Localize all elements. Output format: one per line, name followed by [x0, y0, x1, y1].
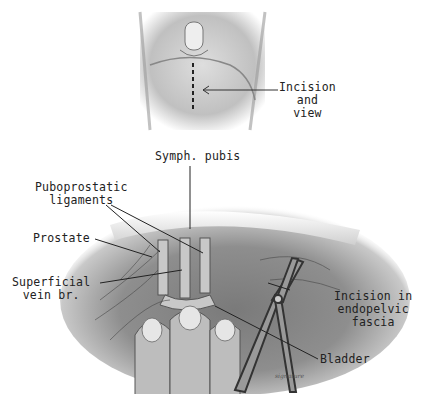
label-bladder: Bladder — [320, 353, 370, 366]
top-panel — [140, 12, 278, 130]
label-symph-pubis: Symph. pubis — [155, 150, 240, 163]
svg-text:signature: signature — [275, 372, 304, 380]
label-prostate: Prostate — [33, 232, 90, 245]
label-line: vein br. — [12, 289, 90, 302]
label-line: ligaments — [35, 194, 128, 207]
label-superficial-vein-br: Superficial vein br. — [12, 276, 90, 302]
label-line: view — [279, 107, 336, 120]
label-line: fascia — [334, 316, 412, 329]
label-puboprostatic-ligaments: Puboprostatic ligaments — [35, 181, 128, 207]
label-incision-and-view: Incision and view — [279, 81, 336, 120]
anatomical-illustration: signature Incision and view Symph. pubis… — [0, 0, 430, 394]
label-incision-endopelvic-fascia: Incision in endopelvic fascia — [334, 290, 412, 329]
